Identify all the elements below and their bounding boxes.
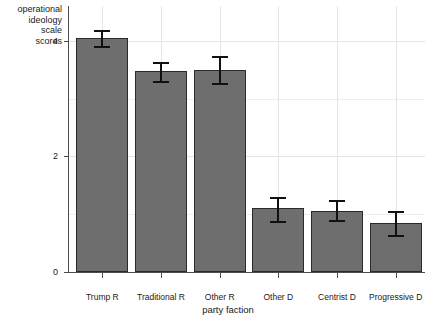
plot-panel	[68, 6, 425, 272]
error-bar-line	[277, 197, 279, 221]
x-tick-label: Traditional R	[137, 292, 185, 302]
x-axis-line	[68, 272, 425, 273]
bar-chart: operational ideology scale scores Trump …	[0, 0, 430, 320]
error-bar-line	[395, 211, 397, 235]
error-bar-cap-lower	[388, 235, 404, 237]
x-tick-label: Other D	[263, 292, 293, 302]
y-tick	[64, 41, 68, 42]
bar	[194, 70, 246, 272]
x-tick-label: Trump R	[86, 292, 119, 302]
y-tick	[64, 156, 68, 157]
x-axis-title: party faction	[68, 304, 388, 315]
x-tick	[220, 273, 221, 278]
y-tick	[64, 272, 68, 273]
y-axis-line	[68, 6, 69, 272]
error-bar-cap-upper	[212, 56, 228, 58]
y-tick-label: 2	[38, 151, 58, 161]
error-bar-cap-lower	[153, 81, 169, 83]
x-tick-label: Other R	[205, 292, 235, 302]
x-tick	[337, 273, 338, 278]
x-tick	[102, 273, 103, 278]
error-bar-line	[101, 30, 103, 46]
error-bar-cap-upper	[94, 30, 110, 32]
error-bar-cap-lower	[329, 220, 345, 222]
error-bar-cap-upper	[388, 211, 404, 213]
error-bar-cap-upper	[329, 200, 345, 202]
x-tick	[396, 273, 397, 278]
error-bar-cap-lower	[94, 46, 110, 48]
x-tick	[161, 273, 162, 278]
x-tick-label: Centrist D	[318, 292, 356, 302]
error-bar-cap-upper	[270, 197, 286, 199]
error-bar-line	[336, 200, 338, 220]
x-tick-label: Progressive D	[369, 292, 422, 302]
error-bar-cap-lower	[212, 83, 228, 85]
error-bar-line	[160, 62, 162, 82]
y-tick-label: 4	[38, 36, 58, 46]
y-tick-label: 0	[38, 267, 58, 277]
bar	[76, 38, 128, 272]
error-bar-line	[219, 56, 221, 84]
bar	[135, 71, 187, 272]
error-bar-cap-upper	[153, 62, 169, 64]
error-bar-cap-lower	[270, 221, 286, 223]
x-tick	[278, 273, 279, 278]
